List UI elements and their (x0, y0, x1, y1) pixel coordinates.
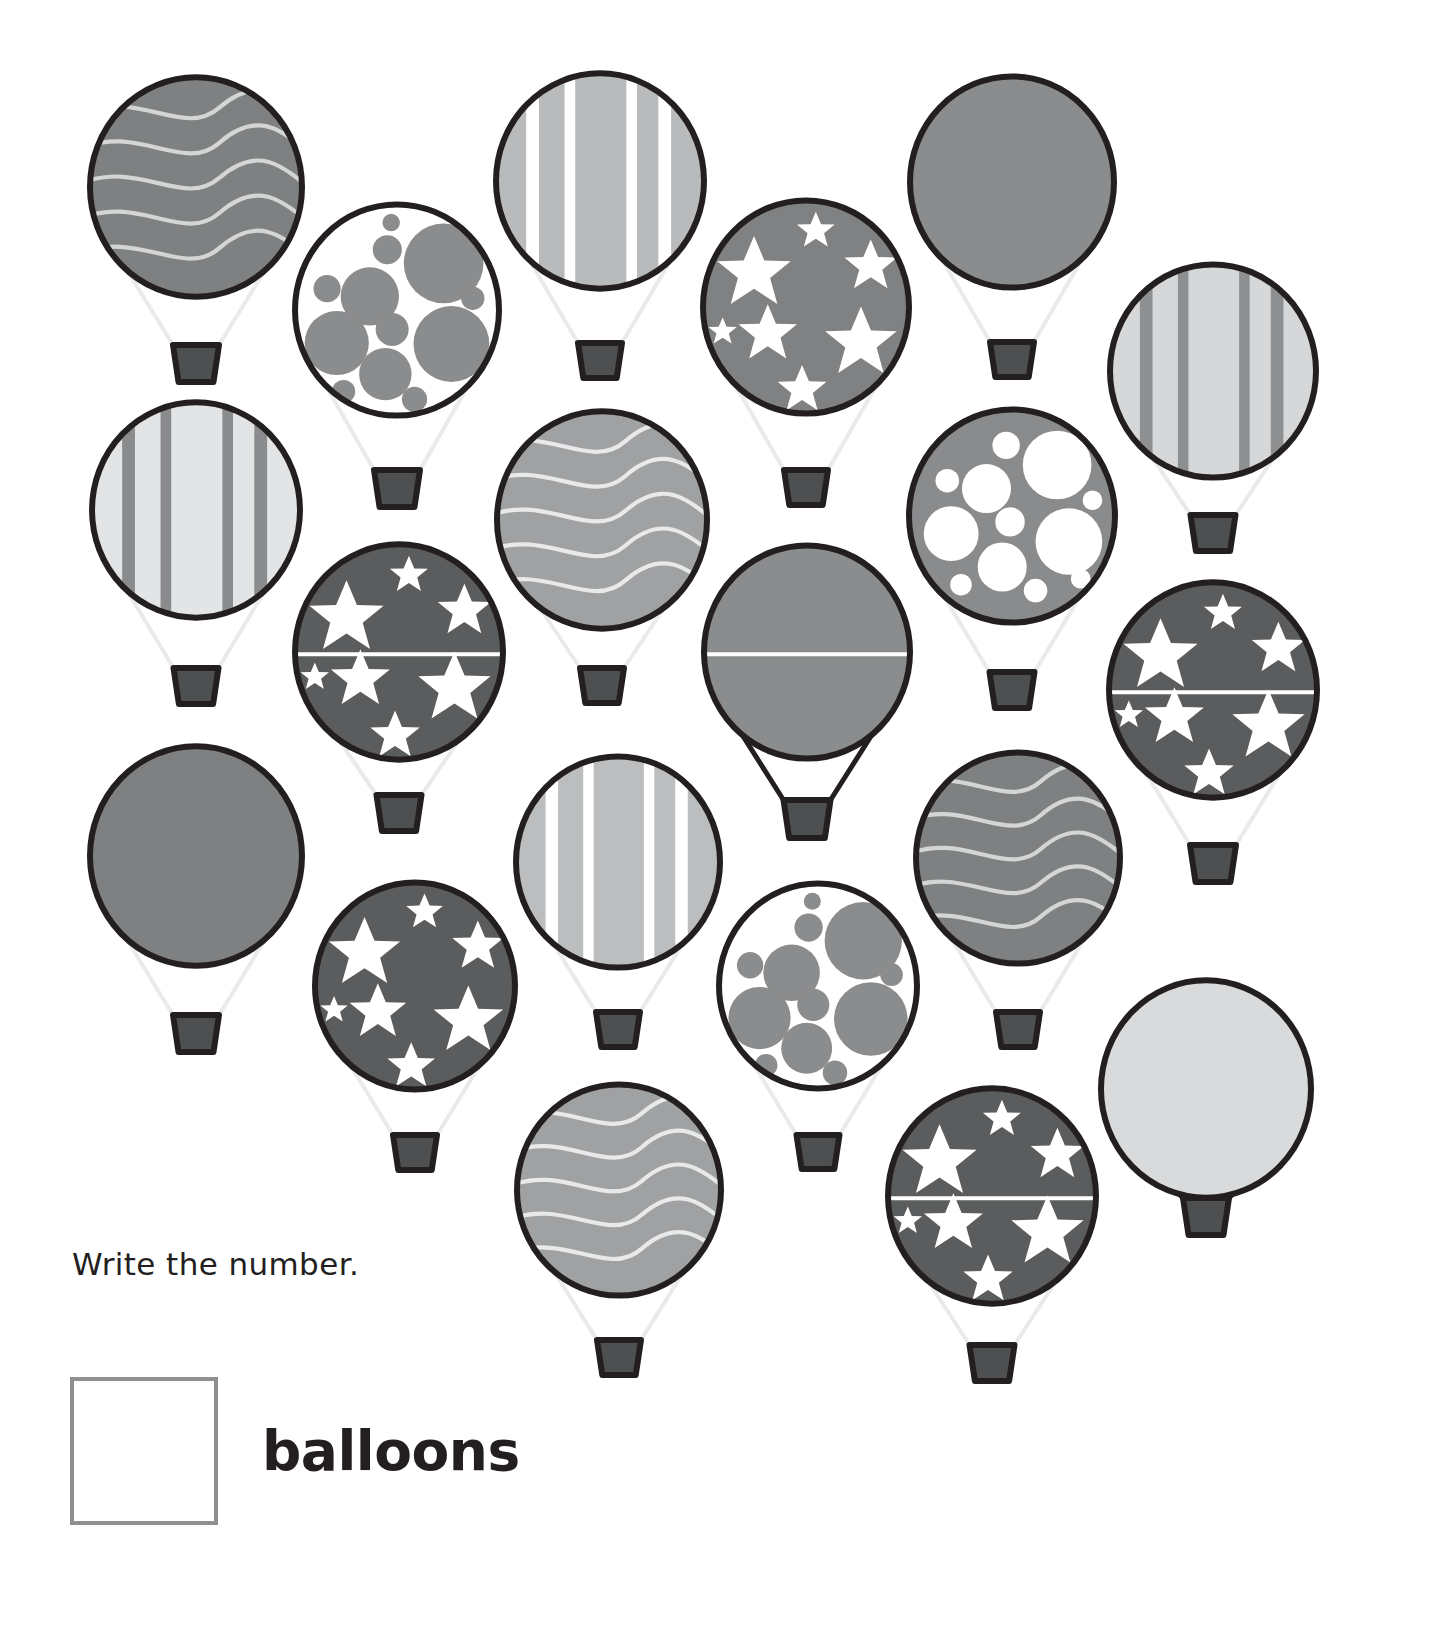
balloon-15 (504, 750, 724, 1047)
balloon-basket (1190, 845, 1236, 882)
balloon-basket (580, 668, 624, 703)
balloon-11 (909, 409, 1115, 708)
balloon-basket (990, 672, 1035, 708)
balloon-20 (883, 1088, 1101, 1381)
balloon-13 (90, 746, 302, 1052)
answer-row: balloons (70, 1377, 520, 1525)
balloon-8 (290, 544, 508, 831)
balloon-basket (173, 1015, 219, 1052)
balloon-basket (377, 795, 422, 831)
balloon-16 (719, 884, 917, 1169)
answer-unit-label: balloons (262, 1419, 520, 1483)
answer-box[interactable] (70, 1377, 218, 1525)
worksheet-page: Write the number. balloons (0, 0, 1429, 1626)
balloon-basket (784, 470, 828, 505)
balloon-5 (910, 76, 1114, 377)
balloon-1 (77, 77, 314, 382)
balloon-basket (990, 342, 1034, 377)
balloon-14 (315, 883, 515, 1171)
balloon-basket (970, 1345, 1015, 1381)
balloon-19 (505, 1084, 733, 1375)
balloon-basket (374, 470, 420, 507)
balloon-basket (996, 1012, 1040, 1047)
balloon-10 (699, 545, 915, 838)
balloon-basket (174, 668, 219, 704)
balloon-basket (784, 800, 831, 838)
balloon-basket (1183, 1198, 1229, 1235)
balloon-6 (1098, 258, 1320, 551)
balloon-4 (703, 200, 909, 505)
balloon-18 (1101, 980, 1311, 1235)
worksheet-prompt: Write the number. (72, 1246, 359, 1282)
balloon-basket (596, 1012, 640, 1047)
balloon-2 (295, 204, 499, 507)
balloon-9 (484, 411, 719, 703)
balloon-basket (578, 343, 622, 378)
balloon-basket (1191, 515, 1236, 551)
balloon-3 (484, 67, 708, 378)
balloon-basket (597, 1340, 641, 1375)
balloon-17 (904, 752, 1132, 1047)
balloon-basket (173, 345, 219, 382)
balloon-12 (1104, 582, 1322, 882)
balloon-basket (393, 1135, 437, 1170)
balloon-7 (80, 396, 304, 704)
balloon-basket (797, 1135, 840, 1169)
